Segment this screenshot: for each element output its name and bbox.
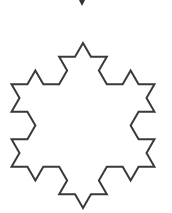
cropped-marker-icon (79, 0, 85, 6)
diagram-canvas (0, 0, 172, 213)
koch-snowflake-shape (12, 43, 155, 208)
